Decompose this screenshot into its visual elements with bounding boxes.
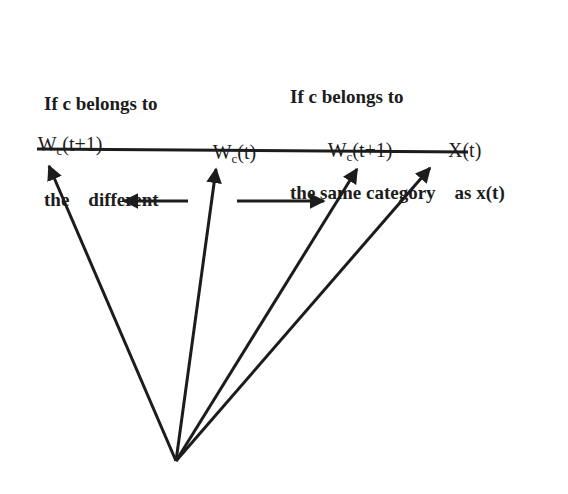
vector-arrow-wc-t-plus-1-left (49, 166, 176, 461)
vector-arrow-wc-t (176, 169, 216, 461)
vector-diagram (0, 0, 568, 494)
baseline-rule (37, 149, 468, 152)
vector-arrow-x-t (176, 168, 430, 461)
vector-arrow-wc-t-plus-1-right (176, 169, 357, 461)
